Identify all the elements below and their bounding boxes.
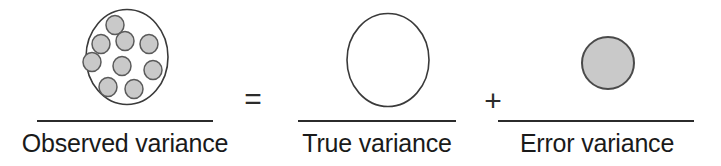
variance-dot	[144, 61, 162, 80]
error-variance-circle-fill	[582, 37, 634, 89]
true-variance-rule	[298, 120, 456, 122]
variance-dot	[99, 78, 117, 97]
true-variance-figure	[280, 0, 474, 118]
variance-dot	[92, 35, 110, 54]
true-variance-label: True variance	[280, 126, 474, 160]
error-variance-rule	[498, 120, 694, 122]
variance-equation-diagram: Observed variance = True variance + Erro…	[0, 0, 721, 166]
variance-dot	[83, 53, 101, 72]
term-true-variance: True variance	[280, 0, 474, 166]
error-variance-label: Error variance	[488, 126, 706, 160]
error-variance-circle	[488, 0, 706, 118]
observed-variance-label: Observed variance	[12, 126, 238, 160]
term-error-variance: Error variance	[488, 0, 706, 166]
true-variance-circle-outline	[347, 14, 429, 107]
variance-dot	[116, 32, 134, 51]
variance-dot	[125, 80, 143, 99]
observed-variance-figure	[12, 0, 238, 118]
error-variance-figure	[488, 0, 706, 118]
term-observed-variance: Observed variance	[12, 0, 238, 166]
observed-variance-circle	[12, 0, 238, 118]
variance-dot	[140, 35, 158, 54]
observed-variance-rule	[37, 120, 213, 122]
equals-operator: =	[240, 84, 266, 114]
true-variance-circle	[280, 0, 474, 118]
variance-dot	[113, 57, 131, 76]
